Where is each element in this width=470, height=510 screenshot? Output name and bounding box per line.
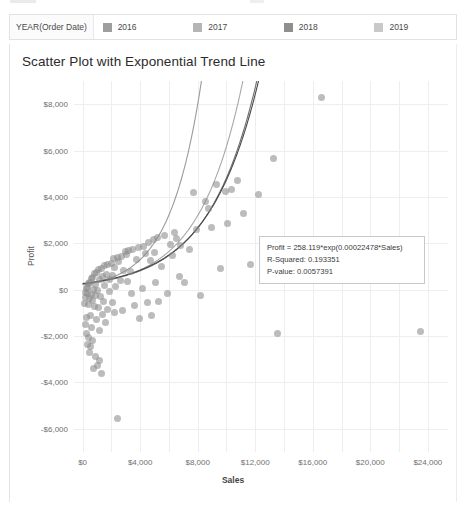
legend-swatch-2016: [103, 23, 112, 32]
scatter-point[interactable]: [102, 319, 109, 326]
scatter-point[interactable]: [96, 327, 103, 334]
cropped-ui-fragment-right: [250, 0, 264, 3]
y-tick-label: $4,000: [44, 192, 68, 201]
legend-label-2019: 2019: [389, 22, 408, 32]
page-top-sliver: [0, 0, 470, 11]
legend-item-2017[interactable]: 2017: [184, 22, 275, 32]
y-tick-label: -$6,000: [41, 424, 68, 433]
chart-panel: Scatter Plot with Exponential Trend Line…: [9, 44, 457, 502]
y-tick-label: $8,000: [44, 100, 68, 109]
legend-item-2016[interactable]: 2016: [94, 22, 185, 32]
scatter-point[interactable]: [152, 279, 159, 286]
x-tick-label: $24,000: [413, 458, 442, 467]
trend-p-value: P-value: 0.0057391: [267, 266, 418, 278]
y-tick-label: -$2,000: [41, 332, 68, 341]
scatter-point[interactable]: [193, 226, 200, 233]
x-tick-label: $20,000: [356, 458, 385, 467]
x-axis-title: Sales: [10, 475, 456, 485]
legend-label-2016: 2016: [118, 22, 137, 32]
legend-swatch-2017: [193, 23, 202, 32]
scatter-point[interactable]: [318, 94, 325, 101]
scatter-point[interactable]: [213, 181, 220, 188]
scatter-point[interactable]: [119, 307, 126, 314]
scatter-point[interactable]: [240, 210, 247, 217]
legend-label-2018: 2018: [299, 22, 318, 32]
legend-swatch-2018: [284, 23, 293, 32]
scatter-point[interactable]: [208, 224, 215, 231]
trend-equation: Profit = 258.119*exp(0.00022478*Sales): [267, 242, 418, 254]
scatter-point[interactable]: [177, 242, 184, 249]
x-tick-label: $12,000: [241, 458, 270, 467]
scatter-point[interactable]: [167, 241, 174, 248]
scatter-point[interactable]: [190, 189, 197, 196]
scatter-point[interactable]: [93, 316, 100, 323]
x-axis-tick-labels: $0$4,000$8,000$12,000$16,000$20,000$24,0…: [74, 458, 448, 472]
scatter-point[interactable]: [114, 415, 121, 422]
x-tick-label: $16,000: [298, 458, 327, 467]
legend-item-2018[interactable]: 2018: [275, 22, 366, 32]
trend-line-annotation-tooltip: Profit = 258.119*exp(0.00022478*Sales) R…: [259, 236, 425, 284]
scatter-point[interactable]: [84, 341, 91, 348]
y-tick-label: $2,000: [44, 239, 68, 248]
chart-title: Scatter Plot with Exponential Trend Line: [22, 54, 265, 69]
legend-label-2017: 2017: [208, 22, 227, 32]
y-tick-label: $0: [59, 285, 68, 294]
scatter-point[interactable]: [98, 370, 105, 377]
scatter-point[interactable]: [169, 252, 176, 259]
y-tick-label: $6,000: [44, 146, 68, 155]
scatter-point[interactable]: [197, 292, 204, 299]
scatter-point[interactable]: [161, 232, 168, 239]
scatter-point[interactable]: [124, 278, 131, 285]
legend-item-2019[interactable]: 2019: [365, 22, 456, 32]
scatter-point[interactable]: [142, 250, 149, 257]
year-color-legend: YEAR(Order Date) 2016 2017 2018 2019: [9, 14, 457, 40]
scatter-point[interactable]: [100, 298, 107, 305]
scatter-point[interactable]: [255, 191, 262, 198]
y-axis-tick-labels: $8,000$6,000$4,000$2,000$0-$2,000-$4,000…: [10, 81, 68, 452]
legend-swatch-2019: [374, 23, 383, 32]
x-tick-label: $0: [78, 458, 87, 467]
trend-r-squared: R-Squared: 0.193351: [267, 254, 418, 266]
scatter-point[interactable]: [109, 299, 116, 306]
scatter-point[interactable]: [186, 246, 193, 253]
scatter-point[interactable]: [205, 205, 212, 212]
scatter-point[interactable]: [164, 290, 171, 297]
legend-title: YEAR(Order Date): [10, 15, 94, 39]
x-tick-label: $4,000: [128, 458, 152, 467]
scatter-point[interactable]: [147, 257, 154, 264]
y-tick-label: -$4,000: [41, 378, 68, 387]
cropped-ui-fragment-left: [10, 0, 36, 3]
scatter-point[interactable]: [111, 309, 118, 316]
x-tick-label: $8,000: [185, 458, 209, 467]
scatter-point[interactable]: [99, 311, 106, 318]
scatter-point[interactable]: [83, 314, 90, 321]
scatter-point[interactable]: [144, 299, 151, 306]
scatter-point[interactable]: [148, 312, 155, 319]
